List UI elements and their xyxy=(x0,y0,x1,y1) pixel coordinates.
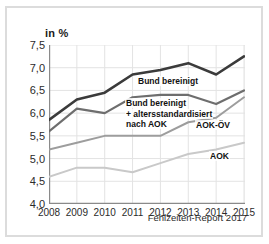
source-note: Fehlzeiten-Report 2017 xyxy=(148,212,247,223)
y-axis-tick-label: 6,5 xyxy=(30,84,45,96)
series-label-bund-std-line1: Bund bereinigt xyxy=(125,98,187,108)
x-axis-tick-label: 2008 xyxy=(38,207,60,218)
series-label-bund-std-line2: + altersstandardisiert xyxy=(125,109,213,119)
x-axis-tick-label: 2011 xyxy=(122,207,144,218)
series-label-aok: AOK xyxy=(209,151,230,162)
y-axis-tick-label: 7,0 xyxy=(30,62,45,74)
series-label-bund-bereinigt: Bund bereinigt xyxy=(137,76,199,87)
y-axis-tick-label: 6,0 xyxy=(30,107,45,119)
y-axis-tick-label: 4,5 xyxy=(30,175,45,187)
series-label-bund-std-line3: nach AOK xyxy=(125,119,168,129)
screenshot-root: in % 4,04,55,05,56,06,57,07,5 2008200920… xyxy=(0,0,269,244)
x-axis-tick-label: 2009 xyxy=(66,207,88,218)
series-label-aok-text: AOK xyxy=(209,151,230,161)
y-axis-tick-labels: 4,04,55,05,56,06,57,07,5 xyxy=(15,45,45,204)
series-label-aok-oev-text: AOK-ÖV xyxy=(195,120,231,130)
series-label-bund-text: Bund bereinigt xyxy=(137,76,199,86)
y-axis-tick-label: 5,0 xyxy=(30,153,45,165)
series-label-aok-oev: AOK-ÖV xyxy=(195,120,231,131)
x-axis-tick-label: 2010 xyxy=(94,207,116,218)
y-axis-tick-label: 5,5 xyxy=(30,130,45,142)
chart-figure-frame: in % 4,04,55,05,56,06,57,07,5 2008200920… xyxy=(5,6,263,237)
y-axis-unit-label: in % xyxy=(45,27,68,39)
y-axis-tick-label: 7,5 xyxy=(30,39,45,51)
